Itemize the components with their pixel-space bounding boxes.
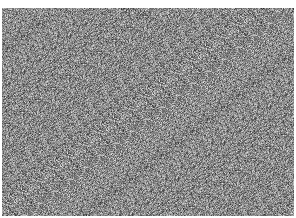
noise-image [2, 8, 294, 216]
noise-canvas [2, 8, 294, 216]
